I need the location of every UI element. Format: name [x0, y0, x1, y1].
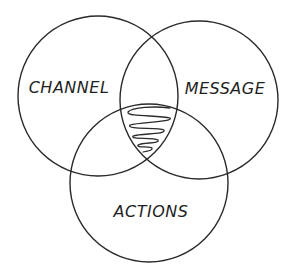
actions-label: ACTIONS — [113, 202, 189, 221]
message-label: MESSAGE — [185, 79, 266, 98]
channel-label: CHANNEL — [29, 78, 110, 97]
venn-diagram-svg: CHANNEL MESSAGE ACTIONS — [0, 0, 294, 279]
actions-circle — [70, 104, 228, 262]
message-circle — [120, 21, 278, 179]
venn-diagram: CHANNEL MESSAGE ACTIONS — [0, 0, 294, 279]
